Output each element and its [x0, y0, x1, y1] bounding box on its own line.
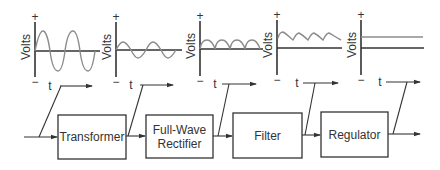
- minus-sign: −: [112, 75, 119, 89]
- leader-line: [128, 85, 143, 136]
- block-label: Filter: [254, 129, 281, 143]
- leader-line: [393, 82, 407, 134]
- waveform-graph-rectifier-output: + − Volts: [184, 9, 263, 88]
- leader-line: [218, 84, 229, 136]
- volts-label: Volts: [345, 32, 359, 58]
- volts-label: Volts: [261, 32, 275, 58]
- leader-line: [305, 83, 315, 135]
- waveform-graph-transformer-output: + − Volts: [100, 10, 182, 89]
- block-label: Regulator: [328, 128, 380, 142]
- time-label: t: [378, 75, 382, 89]
- minus-sign: −: [273, 73, 280, 87]
- time-label: t: [48, 79, 52, 93]
- power-supply-diagram: + − Volts + − Volts + − Volts + − Volts …: [0, 0, 440, 170]
- block-label-line2: Rectifier: [157, 137, 201, 151]
- block-label: Transformer: [60, 130, 125, 144]
- time-label: t: [213, 77, 217, 91]
- volts-label: Volts: [184, 33, 198, 59]
- time-label: t: [295, 76, 299, 90]
- waveform-dc-ripple: [278, 32, 341, 40]
- waveform-graph-regulator-output: + − Volts: [345, 8, 424, 87]
- minus-sign: −: [196, 74, 203, 88]
- waveform-pulsating-dc: [200, 40, 260, 49]
- plus-sign: +: [196, 9, 203, 23]
- block-full-wave-rectifier: Full-Wave Rectifier: [146, 115, 213, 158]
- block-transformer: Transformer: [58, 115, 126, 159]
- waveform-graph-input: + − Volts: [19, 10, 100, 89]
- block-label-line1: Full-Wave: [153, 123, 207, 137]
- volts-label: Volts: [100, 34, 114, 60]
- plus-sign: +: [112, 10, 119, 24]
- block-regulator: Regulator: [321, 112, 388, 157]
- plus-sign: +: [273, 8, 280, 22]
- plus-sign: +: [357, 8, 364, 22]
- plus-sign: +: [31, 10, 38, 24]
- minus-sign: −: [357, 73, 364, 87]
- block-filter: Filter: [233, 113, 302, 158]
- time-label: t: [129, 78, 133, 92]
- waveform-graph-filter-output: + − Volts: [261, 8, 342, 87]
- minus-sign: −: [31, 75, 38, 89]
- volts-label: Volts: [19, 34, 33, 60]
